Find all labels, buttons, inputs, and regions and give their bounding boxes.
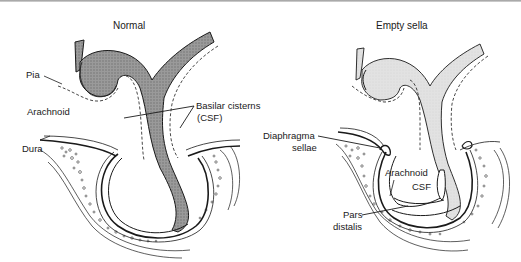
- label-arachnoid-normal: Arachnoid: [27, 106, 70, 117]
- label-pars-line2: distalis: [333, 221, 362, 232]
- label-pia: Pia: [26, 69, 40, 80]
- pituitary-empty-sella: [356, 44, 484, 220]
- panel-empty-sella: Empty sella: [263, 20, 510, 251]
- panel-title-empty-sella: Empty sella: [376, 20, 428, 31]
- panel-normal: Normal: [22, 20, 261, 258]
- label-csf: CSF: [412, 181, 431, 192]
- pituitary-normal: [75, 32, 214, 232]
- label-dura: Dura: [22, 143, 43, 154]
- label-pars-line1: Pars: [343, 209, 363, 220]
- bone-trabeculae-normal: [61, 147, 222, 242]
- label-diaphragma-line1: Diaphragma: [263, 130, 315, 141]
- panel-title-normal: Normal: [113, 20, 145, 31]
- sella-turcica-diagram: Normal: [0, 0, 521, 262]
- label-basilar-cisterns-line2: (CSF): [197, 112, 222, 123]
- label-diaphragma-line2: sellae: [292, 142, 317, 153]
- sella-normal: [40, 136, 240, 258]
- label-basilar-cisterns-line1: Basilar cisterns: [196, 100, 261, 111]
- label-arachnoid-empty-sella: Arachnoid: [385, 167, 428, 178]
